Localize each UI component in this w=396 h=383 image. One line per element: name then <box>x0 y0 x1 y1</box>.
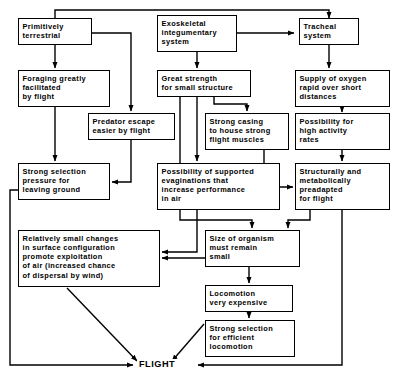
node-strong-selection-pressure-leaving-ground[interactable]: Strong selection pressure for leaving gr… <box>18 163 110 200</box>
node-supply-of-oxygen[interactable]: Supply of oxygen rapid over short distan… <box>295 70 390 107</box>
edge-structurally-to-size-organism <box>288 210 310 228</box>
node-predator-escape-easier-by-flight[interactable]: Predator escape easier by flight <box>88 113 175 140</box>
edge-predator-to-strong-selection <box>112 140 131 182</box>
node-strong-selection-efficient-locomotion[interactable]: Strong selection for efficient locomotio… <box>205 320 295 357</box>
node-structurally-metabolically-preadapted[interactable]: Structurally and metabolically preadapte… <box>295 163 390 210</box>
node-great-strength-for-small-structure[interactable]: Great strength for small structure <box>157 70 251 97</box>
edge-efficient-locomotion-to-flight <box>172 324 204 361</box>
flowchart-diagram: Primitively terrestrial Exoskeletal inte… <box>0 0 396 383</box>
node-relatively-small-changes-surface-configuration[interactable]: Relatively small changes in surface conf… <box>18 230 160 287</box>
node-primitively-terrestrial[interactable]: Primitively terrestrial <box>18 18 92 45</box>
terminal-node-flight[interactable]: FLIGHT <box>137 359 177 369</box>
node-size-of-organism-must-remain-small[interactable]: Size of organism must remain small <box>205 230 300 267</box>
node-exoskeletal-integumentary-system[interactable]: Exoskeletal integumentary system <box>157 15 237 52</box>
node-possibility-high-activity-rates[interactable]: Possibility for high activity rates <box>295 113 390 150</box>
node-foraging-greatly-facilitated-by-flight[interactable]: Foraging greatly facilitated by flight <box>18 70 110 107</box>
node-possibility-supported-evaginations[interactable]: Possibility of supported evaginations th… <box>157 163 280 210</box>
node-strong-casing-flight-muscles[interactable]: Strong casing to house strong flight mus… <box>205 113 289 150</box>
edge-relatively-small-to-flight <box>67 288 137 361</box>
edge-great-strength-to-strong-casing <box>214 97 247 111</box>
node-locomotion-very-expensive[interactable]: Locomotion very expensive <box>205 285 293 312</box>
node-tracheal-system[interactable]: Tracheal system <box>299 18 359 45</box>
